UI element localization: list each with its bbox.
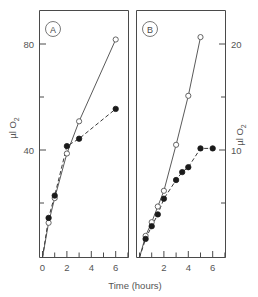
panel-b-open-point — [174, 142, 179, 147]
panel-b-xtick-label-4: 4 — [186, 262, 191, 273]
panel-a-label: A — [50, 25, 56, 35]
panel-b-filled-point — [198, 146, 203, 151]
right-axis-title: µl O2 — [234, 124, 247, 146]
panel-b-filled-point — [180, 169, 185, 174]
panel-a-filled-point — [113, 106, 118, 111]
panel-b-filled-curve — [140, 148, 213, 257]
left-axis-title-group: µl O2 — [7, 117, 20, 139]
panel-a-filled-point — [64, 143, 69, 148]
panel-a-xtick-label-0: 0 — [40, 262, 45, 273]
panel-a-open-point — [113, 37, 118, 42]
left-axis-title-main: µl O — [7, 121, 18, 139]
panel-b-open-point — [161, 188, 166, 193]
panel-a-open-point — [64, 151, 69, 156]
panel-b-filled-point — [143, 236, 148, 241]
panel-a-filled-curve — [43, 109, 116, 258]
panel-b-filled-point — [173, 177, 178, 182]
panel-a-filled-point — [46, 215, 51, 220]
panel-a-xtick-label-6: 6 — [113, 262, 118, 273]
left-axis-title: µl O2 — [7, 117, 20, 139]
panel-b-label: B — [147, 25, 153, 35]
panel-b-open-point — [198, 35, 203, 40]
x-axis-title: Time (hours) — [108, 280, 162, 291]
panel-b-xtick-label-6: 6 — [210, 262, 215, 273]
panel-b-ytick-label-20: 20 — [231, 39, 242, 50]
panel-b-open-point — [155, 204, 160, 209]
panel-a-frame — [40, 11, 129, 258]
right-axis-title-main: µl O — [234, 128, 245, 146]
panel-a-open-curve — [43, 40, 116, 258]
panel-a-xtick-label-2: 2 — [64, 262, 69, 273]
panel-b-open-point — [186, 93, 191, 98]
panel-b-filled-point — [155, 212, 160, 217]
panel-b-filled-point — [149, 224, 154, 229]
right-axis-title-group: µl O2 — [234, 124, 247, 146]
panel-b-open-curve — [140, 37, 201, 257]
panel-b-xtick-label-2: 2 — [161, 262, 166, 273]
panel-a-xtick-label-4: 4 — [89, 262, 94, 273]
panel-a-filled-point — [52, 193, 57, 198]
panel-a-ytick-label-80: 80 — [23, 39, 34, 50]
panel-b-filled-point — [161, 196, 166, 201]
panel-a-ytick-label-40: 40 — [23, 145, 34, 156]
left-axis-title-sub: 2 — [13, 117, 20, 121]
panel-b-filled-point — [210, 146, 215, 151]
two-panel-chart: 80 40 0 2 4 6 A — [0, 0, 258, 297]
panel-a: 80 40 0 2 4 6 A — [23, 11, 128, 274]
panel-b: 20 10 2 4 6 B — [137, 11, 242, 274]
figure-container: 80 40 0 2 4 6 A — [0, 0, 258, 297]
panel-a-open-point — [77, 119, 82, 124]
panel-b-filled-point — [186, 165, 191, 170]
panel-a-filled-point — [76, 136, 81, 141]
right-axis-title-sub: 2 — [240, 124, 247, 128]
